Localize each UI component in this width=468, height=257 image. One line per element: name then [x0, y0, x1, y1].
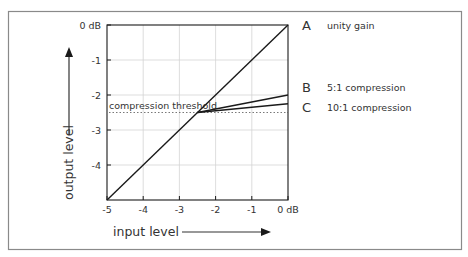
y-tick-label: 0 dB: [79, 20, 101, 31]
y-tick-label: -1: [92, 55, 101, 66]
x-tick-label: -1: [247, 204, 256, 215]
x-tick-label: -5: [102, 204, 111, 215]
series-name-a: unity gain: [327, 20, 375, 31]
outer-frame: [9, 12, 462, 250]
series-key-c: C: [302, 100, 311, 115]
x-tick-label: -3: [175, 204, 184, 215]
compression-chart: compression threshold -5-4-3-2-10 dB0 dB…: [0, 0, 468, 257]
x-axis-title: input level: [113, 224, 179, 239]
series-name-b: 5:1 compression: [327, 82, 406, 93]
x-tick-label: -2: [211, 204, 220, 215]
y-tick-label: -2: [92, 90, 101, 101]
x-tick-label: -4: [138, 204, 147, 215]
y-tick-label: -4: [92, 160, 101, 171]
series-name-c: 10:1 compression: [327, 102, 412, 113]
series-key-a: A: [302, 18, 311, 33]
y-axis-title: output level: [61, 125, 76, 200]
series-key-b: B: [302, 80, 311, 95]
x-tick-label: 0 dB: [277, 204, 299, 215]
y-tick-label: -3: [92, 125, 101, 136]
